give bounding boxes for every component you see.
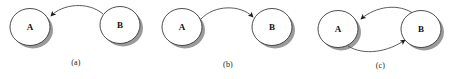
panel-c-graph: A B — [304, 0, 457, 61]
panel-a-graph: A B — [0, 0, 152, 56]
edge-a-to-b — [201, 8, 253, 19]
node-a-label: A — [179, 22, 186, 32]
node-b-label: B — [117, 20, 123, 30]
panel-b: A B (b) — [152, 0, 304, 79]
node-a-label: A — [335, 24, 342, 34]
panel-b-graph: A B — [152, 0, 304, 58]
caption-panel-b: (b) — [152, 60, 304, 69]
panel-a: A B (a) — [0, 0, 152, 79]
node-a-label: A — [27, 22, 34, 32]
panel-c: A B (c) — [304, 0, 457, 79]
figure-root: A B (a) A B (b) — [0, 0, 457, 79]
node-b-label: B — [418, 24, 424, 34]
edge-b-to-a — [51, 6, 103, 16]
caption-panel-a: (a) — [0, 58, 152, 67]
caption-panel-c: (c) — [304, 61, 457, 70]
node-b-label: B — [269, 22, 275, 32]
